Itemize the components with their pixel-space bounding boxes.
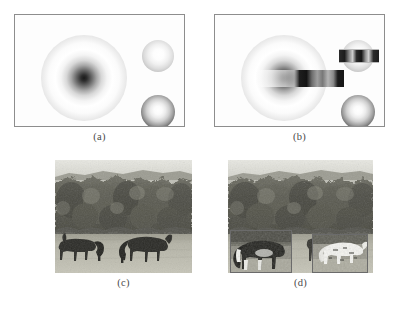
panel-b-main-bar [255, 70, 344, 87]
figure-root: (a) (b) [0, 0, 398, 311]
inset-right-content [313, 235, 368, 273]
panel-d-photograph [228, 160, 373, 273]
panel-a: (a) [14, 14, 185, 149]
panel-b: (b) [214, 14, 385, 149]
panel-c-photograph [55, 160, 192, 273]
detection-inset-left [230, 230, 292, 273]
panel-a-large-sphere [41, 35, 127, 121]
field-scene-c [55, 160, 192, 273]
panel-a-small-light-sphere [142, 40, 174, 72]
panel-c-caption: (c) [55, 277, 192, 288]
panel-d-caption: (d) [228, 277, 373, 288]
panel-a-small-dark-sphere [141, 95, 175, 127]
panel-d: (d) [228, 160, 373, 295]
panel-c: (c) [55, 160, 192, 295]
panel-b-small-bar [339, 49, 379, 63]
detection-inset-right [312, 234, 368, 273]
panel-b-caption: (b) [214, 131, 385, 142]
panel-b-frame [214, 14, 385, 127]
panel-a-frame [14, 14, 185, 127]
panel-a-caption: (a) [14, 131, 185, 142]
inset-left-content [231, 231, 292, 273]
panel-b-small-dark-sphere [341, 95, 375, 127]
